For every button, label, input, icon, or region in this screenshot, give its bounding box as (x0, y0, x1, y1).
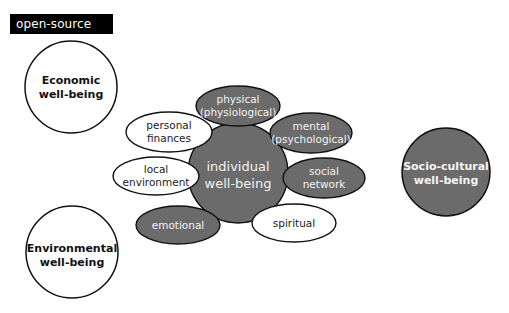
economic-label-line2: well-being (39, 88, 104, 101)
emotional-label: emotional (152, 219, 205, 231)
mental-label-line1: mental (293, 120, 330, 132)
physical-node: physical (physiological) (196, 86, 280, 126)
mental-node: mental (psychological) (270, 113, 352, 153)
environmental-label-line1: Environmental (27, 242, 117, 255)
local-environment-node: local environment (113, 157, 199, 195)
spiritual-node: spiritual (252, 204, 336, 242)
individual-label-line1: individual (206, 159, 269, 174)
wellbeing-diagram: Economic well-being Environmental well-b… (0, 0, 509, 313)
individual-label-line2: well-being (205, 176, 272, 191)
mental-label-line2: (psychological) (271, 133, 350, 145)
local-label-line2: environment (123, 176, 190, 188)
economic-wellbeing-node: Economic well-being (25, 41, 117, 133)
personal-label-line2: finances (147, 132, 191, 144)
social-network-node: social network (283, 158, 365, 198)
physical-label-line2: (physiological) (200, 106, 277, 118)
socio-cultural-wellbeing-node: Socio-cultural well-being (402, 128, 490, 216)
socio-cultural-label-line2: well-being (414, 174, 479, 187)
emotional-node: emotional (136, 206, 220, 244)
personal-finances-node: personal finances (126, 112, 212, 152)
environmental-label-line2: well-being (40, 256, 105, 269)
social-label-line1: social (309, 165, 339, 177)
local-label-line1: local (144, 163, 168, 175)
socio-cultural-label-line1: Socio-cultural (403, 160, 489, 173)
economic-label-line1: Economic (42, 74, 101, 87)
social-label-line2: network (303, 178, 347, 190)
personal-label-line1: personal (146, 119, 191, 131)
spiritual-label: spiritual (273, 217, 315, 229)
economic-circle (25, 41, 117, 133)
environmental-wellbeing-node: Environmental well-being (26, 206, 118, 298)
physical-label-line1: physical (216, 93, 259, 105)
